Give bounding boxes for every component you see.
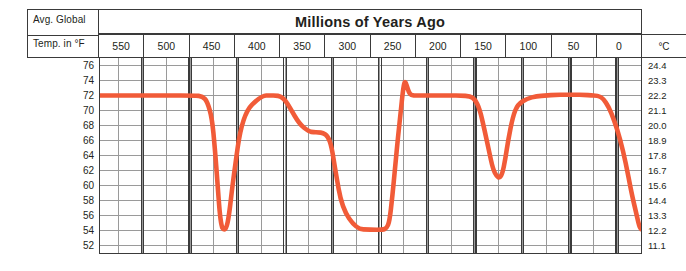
y-tick-64: 64 [83,151,94,161]
plot-area [99,58,642,254]
y-tick-74: 74 [83,76,94,86]
temperature-chart: Avg. Global Temp. in °F Millions of Year… [0,0,686,271]
x-tick-250: 250 [371,35,416,57]
x-tick-450: 450 [190,35,235,57]
y2-tick-15.6: 15.6 [648,181,667,191]
y2-tick-21.1: 21.1 [648,106,667,116]
corner-divider [28,35,98,36]
y2-tick-22.2: 22.2 [648,91,667,101]
x-tick-50: 50 [552,35,597,57]
y-tick-60: 60 [83,181,94,191]
chart-title-box: Millions of Years Ago [99,9,642,34]
y2-axis-tick-labels: 24.423.322.221.120.018.917.816.715.614.4… [644,58,686,254]
y-axis-corner-label: Avg. Global Temp. in °F [27,9,99,58]
x-axis-tick-labels: 550500450400350300250200150100500 [99,34,642,58]
y-tick-76: 76 [83,61,94,71]
y-axis-tick-labels: 76747270686664626058565452 [44,58,98,254]
y2-tick-18.9: 18.9 [648,136,667,146]
y2-tick-20.0: 20.0 [648,121,667,131]
y-axis-label-line2: Temp. in °F [28,38,98,49]
y2-tick-16.7: 16.7 [648,166,667,176]
x-tick-150: 150 [461,35,506,57]
x-tick-500: 500 [144,35,189,57]
x-tick-400: 400 [235,35,280,57]
y2-tick-12.2: 12.2 [648,226,667,236]
y-tick-68: 68 [83,121,94,131]
x-tick-0: 0 [597,35,641,57]
x-tick-350: 350 [280,35,325,57]
y-tick-66: 66 [83,136,94,146]
x-tick-300: 300 [325,35,370,57]
y-tick-62: 62 [83,166,94,176]
y2-tick-23.3: 23.3 [648,76,667,86]
y2-tick-24.4: 24.4 [648,61,667,71]
y-axis-label-line1: Avg. Global [28,14,98,25]
chart-title: Millions of Years Ago [295,14,445,30]
y2-tick-17.8: 17.8 [648,151,667,161]
plot-svg [100,58,641,253]
y-tick-72: 72 [83,91,94,101]
y2-tick-11.1: 11.1 [648,241,666,251]
x-tick-200: 200 [416,35,461,57]
x-tick-550: 550 [99,35,144,57]
x-tick-100: 100 [506,35,551,57]
y2-tick-14.4: 14.4 [648,196,667,206]
y2-tick-13.3: 13.3 [648,211,667,221]
y-tick-54: 54 [83,226,94,236]
y2-axis-unit-label: °C [658,41,669,52]
grid-minor-lines [100,58,641,253]
y-tick-70: 70 [83,106,94,116]
y-tick-58: 58 [83,196,94,206]
y-tick-56: 56 [83,211,94,221]
y-tick-52: 52 [83,241,94,251]
y2-axis-unit-cell: °C [642,34,686,58]
